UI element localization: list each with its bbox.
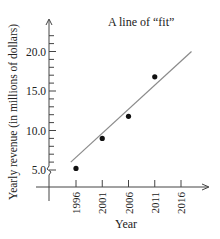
y-axis-label: Yearly revenue (in millions of dollars)	[7, 24, 20, 200]
y-tick-label: 5.0	[32, 164, 47, 176]
fit-line	[71, 52, 192, 163]
x-tick-label: 2001	[96, 192, 108, 214]
data-point	[152, 74, 157, 79]
y-tick-label: 10.0	[26, 125, 46, 137]
x-tick-labels: 19962001200620112016	[70, 192, 187, 215]
x-tick-label: 2011	[149, 192, 161, 214]
data-point	[73, 166, 78, 171]
y-axis	[46, 19, 56, 201]
chart: A line of “fit” Yearly revenue (in milli…	[0, 0, 220, 239]
chart-title: A line of “fit”	[108, 15, 174, 29]
data-point	[126, 114, 131, 119]
y-tick-labels: 5.010.015.020.0	[26, 46, 46, 177]
x-axis-label: Year	[115, 217, 137, 231]
x-tick-label: 2016	[175, 192, 187, 215]
data-points	[73, 74, 157, 171]
y-tick-label: 15.0	[26, 85, 46, 97]
x-tick-label: 2006	[123, 192, 135, 215]
x-tick-label: 1996	[70, 192, 82, 215]
data-point	[100, 136, 105, 141]
x-axis	[36, 180, 209, 190]
y-tick-label: 20.0	[26, 46, 46, 58]
